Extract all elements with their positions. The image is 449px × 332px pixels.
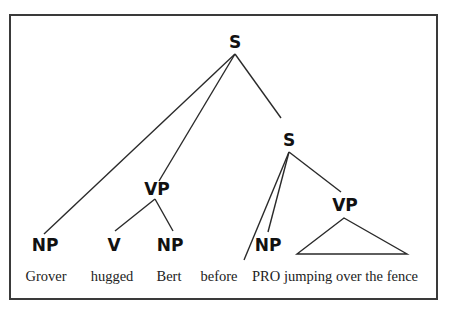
word-grover: Grover (25, 268, 66, 284)
node-s-adjunct: S (283, 130, 295, 150)
node-np-object: NP (157, 235, 184, 255)
node-vp-adjunct: VP (332, 195, 358, 215)
word-pro: PRO (252, 268, 280, 284)
edge-s-s-adjunct (235, 54, 281, 118)
edge-s-np-subject (44, 54, 235, 234)
node-v: V (107, 235, 121, 255)
word-before: before (200, 268, 237, 284)
edge-vp-v (115, 199, 155, 231)
edge-s-vp-adjunct (289, 152, 341, 192)
node-root-s: S (229, 32, 241, 52)
node-vp-main: VP (144, 179, 170, 199)
edge-s-vp (159, 54, 235, 181)
word-vp-phrase: jumping over the fence (283, 268, 418, 284)
word-bert: Bert (157, 268, 182, 284)
vp-triangle (297, 218, 407, 254)
node-np-subject: NP (32, 235, 59, 255)
edge-s-np-pro (268, 152, 289, 232)
syntax-tree: S VP S VP NP V NP NP Grover hugged Bert … (0, 0, 449, 332)
word-hugged: hugged (91, 268, 134, 284)
edge-vp-np-object (155, 199, 173, 231)
node-np-pro: NP (255, 235, 282, 255)
